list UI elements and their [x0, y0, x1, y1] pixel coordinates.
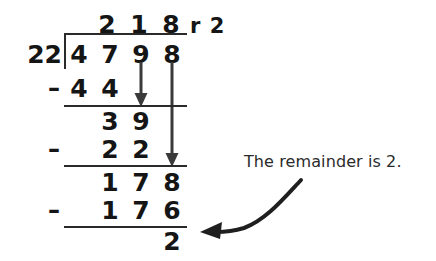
division-vinculum — [64, 33, 187, 35]
dividend-digit-2: 7 — [99, 42, 121, 67]
partial-2-digit-1: 1 — [99, 170, 121, 195]
dividend-digit-1: 4 — [68, 42, 90, 67]
division-bracket-stroke — [64, 33, 66, 69]
divisor-value: 22 — [22, 42, 62, 67]
partial-1-digit-1: 3 — [99, 109, 121, 134]
subtrahend-2-digit-1: 2 — [99, 137, 121, 162]
minus-sign-step-2: – — [45, 137, 63, 162]
partial-1-digit-2: 9 — [130, 109, 152, 134]
subtrahend-3-digit-2: 7 — [130, 198, 152, 223]
quotient-remainder-label: r 2 — [190, 14, 236, 39]
subtrahend-3-digit-1: 1 — [99, 198, 121, 223]
partial-2-digit-3: 8 — [161, 170, 183, 195]
subtrahend-3-digit-3: 6 — [161, 198, 183, 223]
minus-sign-step-1: – — [45, 76, 63, 101]
subtraction-rule-1 — [64, 105, 187, 107]
subtrahend-1-digit-1: 4 — [68, 76, 90, 101]
subtrahend-1-digit-2: 4 — [99, 76, 121, 101]
down-arrow-icon-long — [160, 62, 184, 169]
subtrahend-2-digit-2: 2 — [130, 137, 152, 162]
final-remainder-value: 2 — [161, 229, 183, 254]
minus-sign-step-3: – — [45, 198, 63, 223]
long-division-worksheet: 2 1 8 r 2 22 4 7 9 8 – 4 4 3 9 – 2 2 1 7… — [0, 0, 436, 261]
subtraction-rule-2 — [64, 165, 187, 167]
curved-arrow-left-icon — [196, 176, 308, 240]
remainder-annotation-text: The remainder is 2. — [244, 152, 402, 172]
down-arrow-icon — [129, 62, 153, 109]
partial-2-digit-2: 7 — [130, 170, 152, 195]
